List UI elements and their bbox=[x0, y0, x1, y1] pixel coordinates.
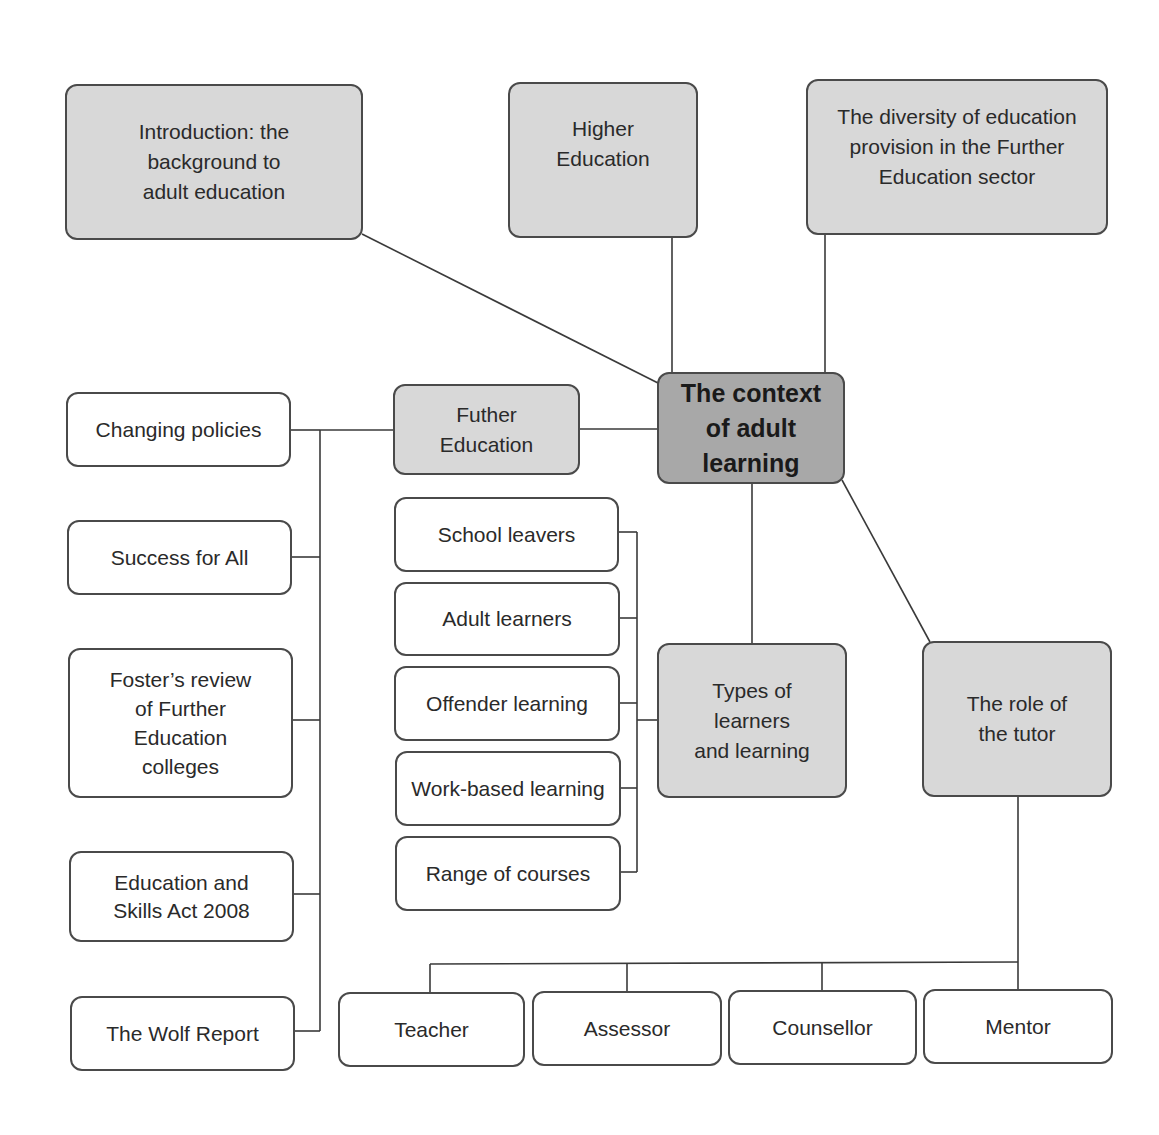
topic-types-of-learners: Types of learners and learning bbox=[657, 643, 847, 798]
central-topic-label: The context of adult learning bbox=[681, 376, 821, 481]
tutor-role-item: Counsellor bbox=[728, 990, 917, 1065]
topic-introduction: Introduction: the background to adult ed… bbox=[65, 84, 363, 240]
topic-types-of-learners-label: Types of learners and learning bbox=[694, 676, 810, 766]
tutor-role-label: Assessor bbox=[584, 1014, 670, 1044]
policy-item: The Wolf Report bbox=[70, 996, 295, 1071]
topic-further-education: Futher Education bbox=[393, 384, 580, 475]
learner-type-item: Work-based learning bbox=[395, 751, 621, 826]
policy-item-label: Foster’s review of Further Education col… bbox=[110, 665, 252, 781]
policy-item: Success for All bbox=[67, 520, 292, 595]
learner-type-item: School leavers bbox=[394, 497, 619, 572]
learner-type-label: Range of courses bbox=[426, 859, 591, 889]
topic-further-education-label: Futher Education bbox=[440, 400, 533, 460]
policy-item-label: The Wolf Report bbox=[106, 1019, 259, 1049]
topic-role-of-tutor: The role of the tutor bbox=[922, 641, 1112, 797]
central-topic: The context of adult learning bbox=[657, 372, 845, 484]
policy-item-label: Changing policies bbox=[96, 415, 262, 445]
tutor-role-label: Teacher bbox=[394, 1015, 469, 1045]
policy-item: Foster’s review of Further Education col… bbox=[68, 648, 293, 798]
topic-higher-education: Higher Education bbox=[508, 82, 698, 238]
learner-type-label: Adult learners bbox=[442, 604, 572, 634]
tutor-role-item: Assessor bbox=[532, 991, 722, 1066]
learner-type-label: School leavers bbox=[438, 520, 576, 550]
tutor-role-label: Counsellor bbox=[772, 1013, 872, 1043]
learner-type-label: Work-based learning bbox=[411, 774, 604, 804]
tutor-role-label: Mentor bbox=[985, 1012, 1050, 1042]
learner-type-item: Range of courses bbox=[395, 836, 621, 911]
policy-item: Education and Skills Act 2008 bbox=[69, 851, 294, 942]
policy-item: Changing policies bbox=[66, 392, 291, 467]
topic-diversity: The diversity of education provision in … bbox=[806, 79, 1108, 235]
tutor-role-item: Teacher bbox=[338, 992, 525, 1067]
topic-role-of-tutor-label: The role of the tutor bbox=[967, 689, 1067, 749]
learner-type-label: Offender learning bbox=[426, 689, 588, 719]
tutor-role-item: Mentor bbox=[923, 989, 1113, 1064]
topic-diversity-label: The diversity of education provision in … bbox=[837, 102, 1076, 192]
topic-introduction-label: Introduction: the background to adult ed… bbox=[139, 117, 290, 207]
learner-type-item: Adult learners bbox=[394, 582, 620, 656]
policy-item-label: Success for All bbox=[111, 543, 249, 573]
policy-item-label: Education and Skills Act 2008 bbox=[113, 869, 250, 925]
topic-higher-education-label: Higher Education bbox=[556, 114, 649, 174]
learner-type-item: Offender learning bbox=[394, 666, 620, 741]
